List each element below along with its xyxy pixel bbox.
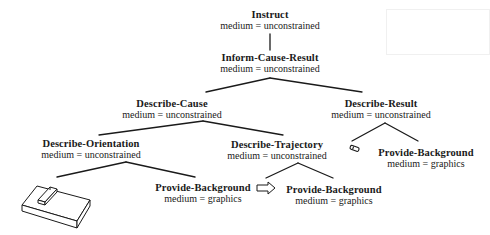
node-title: Provide-Background	[155, 182, 250, 193]
node-medium: medium = unconstrained	[220, 20, 320, 31]
node-inform-cause-result: Inform-Cause-Result medium = unconstrain…	[220, 52, 320, 74]
edge-result-small-object	[352, 123, 385, 141]
edge-cause-trajectory	[203, 121, 283, 135]
node-medium: medium = unconstrained	[122, 109, 222, 120]
node-medium: medium = unconstrained	[220, 63, 320, 74]
node-title: Provide-Background	[378, 147, 473, 158]
node-describe-result: Describe-Result medium = unconstrained	[331, 98, 431, 120]
node-title: Describe-Trajectory	[227, 139, 327, 150]
node-medium: medium = unconstrained	[227, 150, 327, 161]
node-title: Inform-Cause-Result	[220, 52, 320, 63]
edge-trajectory-left	[266, 163, 298, 178]
node-title: Describe-Result	[331, 98, 431, 109]
edge-orientation-device	[57, 162, 126, 177]
node-title: Describe-Cause	[122, 98, 222, 109]
node-provide-background-trajectory: Provide-Background medium = graphics	[286, 184, 381, 206]
node-title: Instruct	[220, 9, 320, 20]
node-medium: medium = graphics	[286, 195, 381, 206]
node-medium: medium = graphics	[378, 158, 473, 169]
node-medium: medium = graphics	[155, 193, 250, 204]
edge-orientation-provide-background	[126, 162, 195, 177]
edge-inform-describe-result	[270, 78, 362, 92]
edge-trajectory-provide-background	[298, 163, 333, 178]
node-provide-background-result: Provide-Background medium = graphics	[378, 147, 473, 169]
edge-cause-orientation	[99, 121, 203, 135]
node-medium: medium = unconstrained	[331, 109, 431, 120]
node-medium: medium = unconstrained	[41, 149, 141, 160]
node-instruct: Instruct medium = unconstrained	[220, 9, 320, 31]
node-describe-trajectory: Describe-Trajectory medium = unconstrain…	[227, 139, 327, 161]
node-title: Provide-Background	[286, 184, 381, 195]
node-describe-orientation: Describe-Orientation medium = unconstrai…	[41, 138, 141, 160]
small-object-icon	[350, 145, 360, 152]
node-provide-background-orientation: Provide-Background medium = graphics	[155, 182, 250, 204]
right-arrow-icon	[257, 182, 275, 194]
node-describe-cause: Describe-Cause medium = unconstrained	[122, 98, 222, 120]
edge-result-provide-background	[385, 123, 418, 141]
node-title: Describe-Orientation	[41, 138, 141, 149]
edge-inform-describe-cause	[206, 78, 270, 92]
device-illustration	[22, 186, 90, 228]
